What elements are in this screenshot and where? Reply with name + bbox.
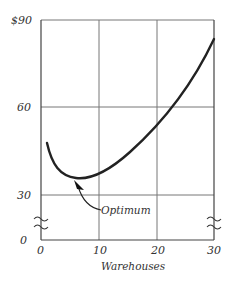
optimum-label: Optimum (101, 204, 151, 216)
x-axis-label: Warehouses (101, 260, 166, 272)
x-tick-10: 10 (93, 244, 107, 257)
y-tick-90: $90 (11, 14, 32, 27)
cost-curve (47, 39, 214, 178)
chart: Optimum $90 60 30 0 0 10 20 30 Warehouse… (0, 0, 235, 283)
x-tick-0: 0 (37, 244, 44, 257)
y-tick-60: 60 (17, 101, 31, 114)
y-tick-30: 30 (17, 189, 31, 202)
y-tick-0: 0 (20, 234, 27, 247)
x-tick-20: 20 (150, 244, 165, 257)
x-tick-30: 30 (207, 244, 221, 257)
